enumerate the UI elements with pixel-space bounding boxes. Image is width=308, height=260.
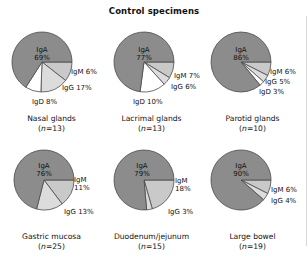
page-edge-line <box>306 16 307 246</box>
pie-label-igg: IgG 13% <box>64 208 94 216</box>
pie-caption-duodenum-jejunum: Duodenum/jejunum (n=15) <box>100 232 203 251</box>
pie-svg-large-bowel <box>201 144 304 220</box>
pie-caption-large-bowel: Large bowel (n=19) <box>201 232 304 251</box>
pie-panel-gastric-mucosa: IgA 76% IgM 11% IgG 13% Gastric mucosa (… <box>0 144 103 256</box>
pie-caption-gastric-mucosa: Gastric mucosa (n=25) <box>0 232 103 251</box>
pie-caption-parotid-glands: Parotid glands (n=10) <box>201 114 304 133</box>
pie-sample-size: (n=15) <box>138 242 165 251</box>
pie-chart-gastric-mucosa: IgA 76% IgM 11% IgG 13% <box>0 144 103 220</box>
pie-sample-size: (n=13) <box>38 124 65 133</box>
pie-label-igd: IgD 3% <box>259 88 284 96</box>
pie-label-igg: IgG 17% <box>62 84 92 92</box>
pie-slice-iga <box>211 150 271 210</box>
pie-label-igm: IgM 6% <box>271 186 297 194</box>
pie-label-igg: IgG 6% <box>171 83 196 91</box>
pie-label-igm: IgM 18% <box>175 177 191 194</box>
pie-chart-parotid-glands: IgA 86% IgM 6% IgG 5% IgD 3% <box>201 26 304 102</box>
pie-chart-large-bowel: IgA 90% IgM 6% IgG 4% <box>201 144 304 220</box>
pie-panel-duodenum-jejunum: IgA 79% IgM 18% IgG 3% Duodenum/jejunum … <box>100 144 203 256</box>
pie-inner-label-iga: IgA 69% <box>22 46 62 63</box>
pie-caption-nasal-glands: Nasal glands (n=13) <box>0 114 103 133</box>
pie-caption-lacrimal-glands: Lacrimal glands (n=13) <box>100 114 203 133</box>
pie-panel-large-bowel: IgA 90% IgM 6% IgG 4% Large bowel (n=19) <box>201 144 304 256</box>
pie-label-igg: IgG 4% <box>271 197 296 205</box>
pie-inner-label-iga: IgA 90% <box>221 162 261 179</box>
pie-inner-label-iga: IgA 76% <box>24 162 64 179</box>
pie-inner-label-iga: IgA 79% <box>122 162 162 179</box>
pie-svg-parotid-glands <box>201 26 304 102</box>
pie-label-igm: IgM 11% <box>74 176 90 193</box>
pie-panel-parotid-glands: IgA 86% IgM 6% IgG 5% IgD 3% Parotid gla… <box>201 26 304 138</box>
pie-sample-size: (n=25) <box>38 242 65 251</box>
pie-label-igm: IgM 7% <box>174 72 200 80</box>
pie-label-igd: IgD 10% <box>133 98 163 106</box>
pie-label-igg: IgG 3% <box>168 208 193 216</box>
pie-sample-size: (n=19) <box>239 242 266 251</box>
pie-sample-size: (n=10) <box>239 124 266 133</box>
pie-inner-label-iga: IgA 86% <box>221 46 261 63</box>
pie-chart-nasal-glands: IgA 69% IgM 6% IgG 17% IgD 8% <box>0 26 103 102</box>
pie-panel-nasal-glands: IgA 69% IgM 6% IgG 17% IgD 8% Nasal glan… <box>0 26 103 138</box>
pie-label-igm: IgM 6% <box>71 68 97 76</box>
pie-label-igg: IgG 5% <box>265 78 290 86</box>
figure-root: Control specimens IgA 69% IgM 6% IgG 17%… <box>0 0 308 260</box>
pie-panel-lacrimal-glands: IgA 77% IgM 7% IgG 6% IgD 10% Lacrimal g… <box>100 26 203 138</box>
figure-title: Control specimens <box>0 6 308 16</box>
pie-label-igm: IgM 6% <box>270 68 296 76</box>
pie-inner-label-iga: IgA 77% <box>124 46 164 63</box>
pie-chart-lacrimal-glands: IgA 77% IgM 7% IgG 6% IgD 10% <box>100 26 203 102</box>
pie-label-igd: IgD 8% <box>32 98 57 106</box>
pie-chart-duodenum-jejunum: IgA 79% IgM 18% IgG 3% <box>100 144 203 220</box>
pie-sample-size: (n=13) <box>138 124 165 133</box>
